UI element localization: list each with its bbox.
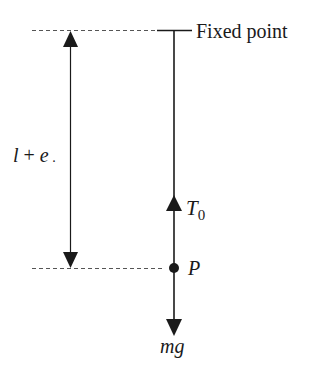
length-label: l + e . xyxy=(13,144,56,166)
tension-subscript: 0 xyxy=(198,207,206,223)
length-label-e: e xyxy=(40,144,49,166)
particle-dot xyxy=(169,263,179,273)
tension-label: T0 xyxy=(186,196,205,223)
dimension-arrowhead-down-icon xyxy=(63,252,78,268)
length-label-plus: + xyxy=(19,144,40,166)
weight-arrowhead-icon xyxy=(166,319,182,336)
elastic-string-diagram: Fixed point l + e . T0 P mg xyxy=(0,0,325,387)
weight-label: mg xyxy=(160,335,184,358)
fixed-point-label: Fixed point xyxy=(196,20,288,43)
tension-arrowhead-icon xyxy=(166,195,182,211)
particle-label: P xyxy=(187,257,200,279)
length-label-dot: . xyxy=(49,150,56,165)
dimension-arrowhead-up-icon xyxy=(63,31,78,47)
